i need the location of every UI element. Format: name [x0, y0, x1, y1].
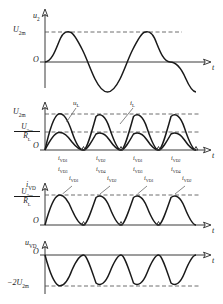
plot-ul-il: U2m U2m RL O t uL iL iVD1 iVD2 iVD1 [0, 92, 223, 182]
ul-il-x-axis-arrow [204, 147, 212, 153]
ul-il-y-axis-arrow [42, 102, 48, 110]
plot-u2: u2 U2m O t [0, 0, 223, 92]
ul-leader-line [67, 108, 77, 122]
lower-level-denominator: RL [14, 131, 40, 140]
ul-il-time-axis-label: t [212, 152, 214, 160]
ivd-leader-2 [100, 186, 110, 194]
il-leader-line [120, 108, 133, 124]
diode-mark-top-2: iVD2 [96, 155, 106, 161]
plot-ivd: iVD U2m RL O t iVD1 iVD2 iVD1 iVD2 [0, 172, 223, 240]
ivd-hump-label-top-4: iVD2 [182, 175, 192, 181]
u2-y-axis-arrow [42, 9, 48, 17]
u2-time-axis-label: t [212, 64, 214, 72]
ivd-y-axis-arrow [42, 183, 48, 191]
diode-mark-top-4: iVD2 [171, 155, 181, 161]
ul-il-upper-level-label: U2m [13, 108, 26, 116]
ivd-hump-label-top-3: iVD1 [144, 175, 154, 181]
ivd-level-denominator: RL [14, 196, 40, 205]
ivd-leader-1 [63, 186, 73, 194]
ul-curve-label: uL [73, 100, 79, 107]
diode-mark-top-3: iVD1 [133, 155, 143, 161]
plot-uvd: uVD O −2U2m t [0, 236, 223, 304]
ivd-hump-label-top-1: iVD1 [69, 175, 79, 181]
uvd-time-axis-label: t [212, 257, 214, 265]
ul-il-lower-level-fraction: U2m RL [14, 123, 40, 140]
u2-origin-label: O [33, 56, 39, 64]
ivd-origin-label: O [33, 217, 39, 225]
uvd-min-level-label: −2U2m [7, 279, 29, 287]
ivd-leader-3 [138, 186, 148, 194]
ivd-curve [45, 195, 196, 225]
uvd-curve [45, 255, 196, 286]
uvd-x-axis-arrow [204, 252, 212, 258]
ivd-leader-4 [175, 186, 185, 194]
diode-mark-top-1: iVD1 [58, 155, 68, 161]
uvd-y-axis-arrow [42, 241, 48, 249]
rectifier-waveform-figure: u2 U2m O t [0, 0, 223, 304]
il-curve-label: iL [130, 100, 135, 107]
ul-il-origin-label: O [33, 142, 39, 150]
u2-x-axis-arrow [204, 59, 212, 65]
ivd-x-axis-arrow [204, 222, 212, 228]
uvd-origin-label: O [33, 248, 39, 256]
u2-y-axis-label: u2 [33, 12, 40, 20]
u2-amplitude-label: U2m [13, 26, 26, 34]
uvd-y-axis-label: uVD [25, 239, 37, 247]
ivd-level-numerator: U2m [14, 188, 40, 196]
ivd-time-axis-label: t [212, 227, 214, 235]
lower-level-numerator: U2m [14, 123, 40, 131]
ivd-level-fraction: U2m RL [14, 188, 40, 205]
ivd-hump-label-top-2: iVD2 [107, 175, 117, 181]
